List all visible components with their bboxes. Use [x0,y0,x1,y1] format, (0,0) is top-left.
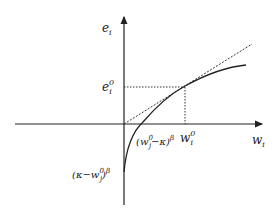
diagram-svg: ei wi e0i w0i (w0j−κ)β (κ−w0j)β [0,0,279,216]
diagram-canvas: ei wi e0i w0i (w0j−κ)β (κ−w0j)β [0,0,279,216]
y-intercept-label: (κ−w0j)β [72,167,110,183]
y-axis-label: ei [102,21,112,37]
x-intercept-label: (w0j−κ)β [136,134,174,150]
w0-label: w0i [180,129,195,147]
e0-label: e0i [102,78,114,96]
x-axis-label: wi [252,133,265,149]
